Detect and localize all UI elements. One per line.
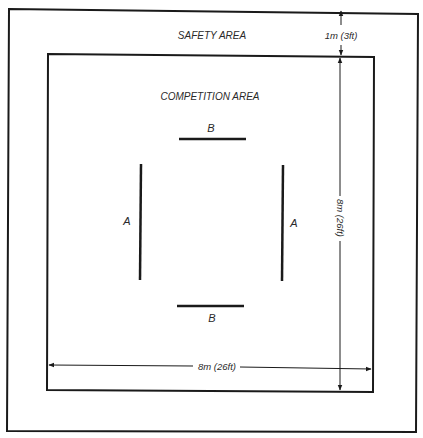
competition-area-label: COMPETITION AREA — [160, 91, 259, 102]
safety-area-label: SAFETY AREA — [178, 30, 247, 41]
line-a-left — [140, 164, 141, 280]
line-a-right-label: A — [289, 217, 297, 229]
competition-height-label: 8m (26ft) — [335, 199, 346, 237]
line-a-left-label: A — [122, 215, 130, 227]
line-b-top-label: B — [207, 122, 214, 134]
competition-width-dimension-right — [240, 367, 371, 369]
line-b-bottom-label: B — [208, 312, 215, 324]
competition-area-border — [47, 54, 374, 392]
safety-width-label: 1m (3ft) — [325, 30, 358, 41]
competition-width-dimension-left — [49, 365, 193, 366]
competition-width-label: 8m (26ft) — [198, 361, 236, 372]
competition-area-diagram: SAFETY AREA COMPETITION AREA 1m (3ft) 8m… — [0, 0, 423, 438]
line-a-right — [282, 165, 283, 281]
